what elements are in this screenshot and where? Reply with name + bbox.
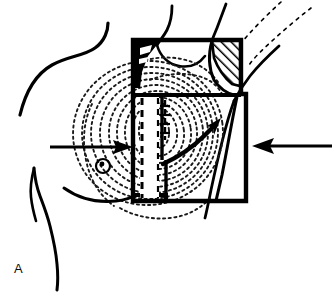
left-traction-arrow[interactable] bbox=[50, 140, 133, 154]
skin-flap-strip bbox=[140, 97, 170, 199]
breast-lateral-arc bbox=[84, 104, 114, 206]
upper-arm-line-1 bbox=[212, 4, 226, 41]
panel-label: A bbox=[14, 262, 23, 275]
figure-root: A bbox=[0, 0, 334, 304]
arm-torso-contour bbox=[34, 168, 58, 290]
nipple-marker bbox=[96, 159, 110, 173]
neck-shoulder-contour bbox=[20, 23, 108, 115]
right-traction-arrow[interactable] bbox=[252, 138, 332, 154]
upper-arm-line-3 bbox=[249, 8, 311, 65]
anatomical-illustration bbox=[0, 0, 334, 304]
